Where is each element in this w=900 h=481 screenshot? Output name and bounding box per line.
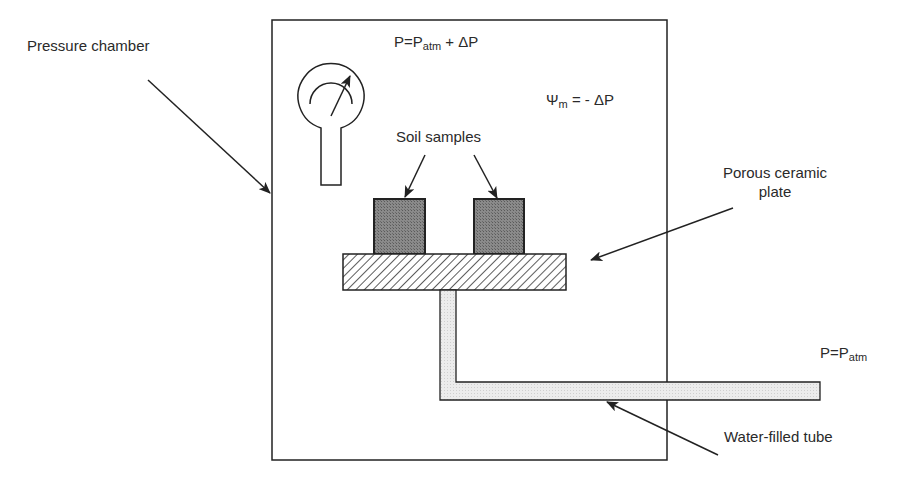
pressure-chamber-text: Pressure chamber [27,37,150,54]
water-tube-text: Water-filled tube [724,428,833,445]
water-filled-tube [440,290,820,400]
porous-plate-label: Porous ceramic plate [706,163,844,201]
equation-lhs: P=P [394,33,423,50]
pressure-gauge-icon [298,64,364,185]
soil-sample-arrow-1 [405,155,425,197]
equation-subscript: m [559,98,568,110]
equation-lhs: P=P [820,344,849,361]
soil-sample-2 [474,199,524,254]
equation-rhs: = - ΔP [568,91,614,108]
pressure-chamber-label: Pressure chamber [27,38,150,53]
porous-ceramic-plate [343,254,566,290]
porous-plate-arrow [591,208,733,260]
pressure-chamber-arrow [148,80,270,193]
equation-rhs: + ΔP [441,33,478,50]
soil-samples-label: Soil samples [396,129,481,144]
water-tube-arrow [607,402,718,455]
porous-plate-text-line1: Porous ceramic [706,163,844,182]
outlet-pressure-label: P=Patm [820,345,867,363]
equation-lhs: Ψ [546,91,559,108]
soil-samples-text: Soil samples [396,128,481,145]
porous-plate-text-line2: plate [706,182,844,201]
equation-subscript: atm [849,351,867,363]
pressure-plate-diagram [0,0,900,481]
soil-sample-1 [374,199,425,254]
water-tube-label: Water-filled tube [724,429,833,444]
matric-potential-equation: Ψm = - ΔP [546,92,614,110]
soil-sample-arrow-2 [474,155,497,198]
chamber-pressure-equation: P=Patm + ΔP [394,34,478,52]
equation-subscript: atm [423,40,441,52]
